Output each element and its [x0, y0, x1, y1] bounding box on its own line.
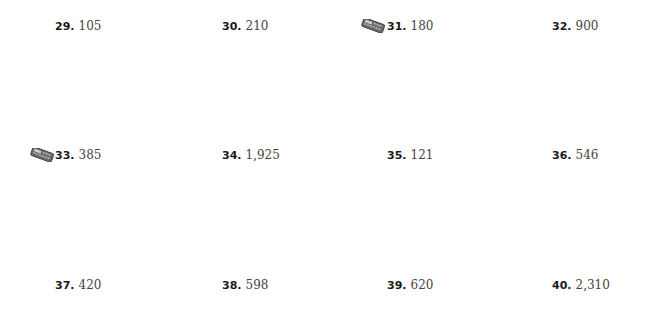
exercise-32: 32.900	[552, 19, 598, 34]
exercise-35: 35.121	[387, 148, 433, 163]
exercise-31: 31.180	[387, 19, 433, 34]
exercise-number: 34.	[222, 149, 242, 162]
exercise-answer: 1,925	[246, 148, 280, 162]
calculator-icon	[29, 148, 55, 162]
exercise-40: 40.2,310	[552, 278, 610, 293]
exercise-39: 39.620	[387, 278, 433, 293]
exercise-33: 33.385	[55, 148, 101, 163]
exercise-number: 39.	[387, 279, 407, 292]
exercise-answer-grid: 29.105 30.210 31.180 32.900 33.385 34.1,…	[0, 0, 649, 319]
exercise-number: 36.	[552, 149, 572, 162]
exercise-number: 33.	[55, 149, 75, 162]
exercise-answer: 385	[79, 148, 102, 162]
exercise-number: 37.	[55, 279, 75, 292]
exercise-29: 29.105	[55, 19, 101, 34]
exercise-34: 34.1,925	[222, 148, 280, 163]
exercise-answer: 121	[411, 148, 434, 162]
exercise-answer: 900	[576, 19, 599, 33]
exercise-number: 29.	[55, 20, 75, 33]
calculator-icon	[360, 19, 386, 33]
exercise-number: 30.	[222, 20, 242, 33]
exercise-answer: 105	[79, 19, 102, 33]
exercise-number: 31.	[387, 20, 407, 33]
exercise-answer: 546	[576, 148, 599, 162]
exercise-number: 35.	[387, 149, 407, 162]
exercise-36: 36.546	[552, 148, 598, 163]
exercise-number: 40.	[552, 279, 572, 292]
exercise-answer: 598	[246, 278, 269, 292]
exercise-answer: 420	[79, 278, 102, 292]
exercise-number: 32.	[552, 20, 572, 33]
exercise-37: 37.420	[55, 278, 101, 293]
exercise-38: 38.598	[222, 278, 268, 293]
exercise-answer: 180	[411, 19, 434, 33]
exercise-answer: 2,310	[576, 278, 610, 292]
exercise-number: 38.	[222, 279, 242, 292]
exercise-30: 30.210	[222, 19, 268, 34]
exercise-answer: 210	[246, 19, 269, 33]
exercise-answer: 620	[411, 278, 434, 292]
